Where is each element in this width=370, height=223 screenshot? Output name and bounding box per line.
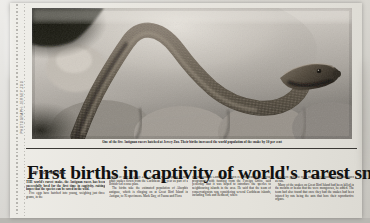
article-column-1: THE world's rarest snake, the Antiguan r… (26, 176, 105, 216)
perforated-edge-secondary (24, 4, 25, 216)
photo-credit: PHOTOGRAPH: JERSEY ZOO (20, 57, 24, 157)
paragraph: Five eggs have hatched into young, weigh… (26, 192, 105, 199)
snake-in-hand-photo-graphic (32, 8, 352, 139)
paragraph: THE world's rarest snake, the Antiguan r… (26, 181, 105, 192)
scanned-clipping-canvas: PHOTOGRAPH: JERSEY ZOO (0, 0, 370, 218)
paragraph: Many of the snakes on Great Bird Island … (275, 184, 354, 202)
article-byline: By Nick Nuttall (33, 171, 103, 175)
photo-caption: One of the five Antiguan racers hatched … (33, 140, 351, 144)
article-body: THE world's rarest snake, the Antiguan r… (26, 176, 357, 216)
article-column-3: International in Cambridge, which is orc… (192, 176, 271, 216)
paragraph: International in Cambridge, which is orc… (192, 176, 271, 198)
article-photo (32, 8, 352, 139)
headline-rule (26, 148, 357, 149)
article-column-4: there were plans to clear non-native pla… (275, 176, 354, 216)
perforated-edge (16, 4, 18, 216)
paragraph: The births take the estimated population… (109, 187, 188, 198)
paragraph: delight of staff at Jersey Zoo. They are… (109, 176, 188, 187)
article-column-2: delight of staff at Jersey Zoo. They are… (109, 176, 188, 216)
